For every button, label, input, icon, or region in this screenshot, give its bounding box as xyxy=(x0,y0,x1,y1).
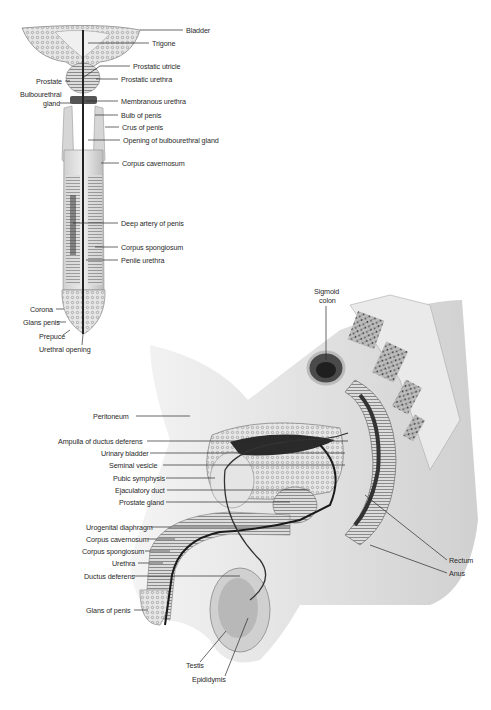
label-sigmoid: Sigmoid xyxy=(314,287,339,296)
label-ejaculatory-duct: Ejaculatory duct xyxy=(115,486,165,495)
label-ductus-deferens: Ductus deferens xyxy=(84,572,135,581)
label-corpus-cavernosum: Corpus cavernosum xyxy=(86,535,149,544)
anatomy-illustration xyxy=(0,0,491,710)
sagittal-view-illustration xyxy=(130,295,478,663)
label-corpus-cavernosum-top: Corpus cavernosum xyxy=(122,159,185,168)
label-bulbourethral: Bulbourethral xyxy=(20,90,61,99)
label-urethra: Urethra xyxy=(112,559,135,568)
label-peritoneum: Peritoneum xyxy=(93,412,129,421)
label-anus: Anus xyxy=(449,569,465,578)
label-penile-urethra: Penile urethra xyxy=(121,256,164,265)
anatomy-figure: Bladder Trigone Prostatic utricle Prosta… xyxy=(0,0,491,710)
label-urogenital-diaphragm: Urogenital diaphragm xyxy=(86,523,153,532)
label-gland: gland xyxy=(43,99,60,108)
label-urinary-bladder: Urinary bladder xyxy=(101,449,149,458)
label-prostate-gland: Prostate gland xyxy=(119,498,164,507)
label-glans-penis: Glans penis xyxy=(23,318,60,327)
label-corona: Corona xyxy=(30,305,53,314)
label-corpus-spongiosum-top: Corpus spongiosum xyxy=(121,243,183,252)
label-bladder: Bladder xyxy=(186,26,210,35)
label-urethral-opening: Urethral opening xyxy=(39,345,91,354)
label-rectum: Rectum xyxy=(449,556,473,565)
coronal-view-illustration xyxy=(22,25,140,334)
label-ampulla-ductus-deferens: Ampulla of ductus deferens xyxy=(58,437,143,446)
label-seminal-vesicle: Seminal vesicle xyxy=(109,461,157,470)
label-opening-bulbourethral-gland: Opening of bulbourethral gland xyxy=(123,136,219,145)
label-trigone: Trigone xyxy=(152,39,175,48)
label-testis: Testis xyxy=(186,661,204,670)
label-bulb-of-penis: Bulb of penis xyxy=(121,111,161,120)
label-glans-of-penis: Glans of penis xyxy=(86,606,131,615)
label-prepuce: Prepuce xyxy=(39,332,65,341)
label-colon: colon xyxy=(319,296,336,305)
label-corpus-spongiosum: Corpus spongiosum xyxy=(82,547,144,556)
label-membranous-urethra: Membranous urethra xyxy=(121,97,186,106)
label-crus-of-penis: Crus of penis xyxy=(122,123,163,132)
label-deep-artery-of-penis: Deep artery of penis xyxy=(121,219,184,228)
label-pubic-symphysis: Pubic symphysis xyxy=(113,474,165,483)
label-prostatic-urethra: Prostatic urethra xyxy=(121,75,172,84)
label-prostatic-utricle: Prostatic utricle xyxy=(133,62,180,71)
label-prostate: Prostate xyxy=(36,77,62,86)
label-epididymis: Epididymis xyxy=(192,675,226,684)
